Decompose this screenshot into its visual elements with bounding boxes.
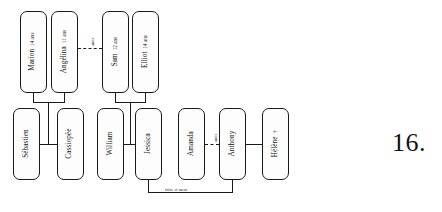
- person-label-sam: Sam 12 ans: [112, 37, 119, 67]
- person-label-cassiopee: Cassiopée: [67, 129, 74, 159]
- person-name: Anthony: [229, 131, 236, 157]
- person-age: 14 ans: [31, 33, 36, 46]
- filiation-stub-angelina: [64, 93, 65, 102]
- person-label-william: William: [107, 132, 114, 156]
- person-label-helene: Hélène †: [272, 130, 279, 157]
- person-node-angelina[interactable]: Angélina 11 ans: [51, 11, 78, 93]
- person-node-elliot[interactable]: Elliot 14 ans: [132, 11, 159, 93]
- person-name: Elliot: [142, 52, 149, 69]
- relation-label-frere-et-soeur: frère et sœur: [163, 188, 189, 192]
- person-label-anthony: Anthony: [229, 131, 236, 157]
- filiation-stub-sam: [115, 93, 116, 102]
- sibling-stub-anthony: [232, 180, 233, 193]
- filiation-drop-left: [48, 102, 49, 144]
- person-label-amanda: Amanda: [188, 132, 195, 157]
- person-label-elliot: Elliot 14 ans: [142, 36, 149, 69]
- person-node-sam[interactable]: Sam 12 ans: [102, 11, 129, 93]
- person-node-sebastien[interactable]: Sébastien: [13, 108, 40, 180]
- person-label-jessica: Jessica: [145, 134, 152, 155]
- person-name: Cassiopée: [67, 129, 74, 159]
- relation-friendship-angelina-sam: [78, 48, 102, 49]
- relation-couple-william-jessica: [123, 144, 136, 145]
- person-age: 12 ans: [113, 37, 118, 50]
- person-node-jessica[interactable]: Jessica: [135, 108, 162, 180]
- person-name: Sébastien: [23, 130, 30, 158]
- sibling-bar-jessica-anthony: [148, 192, 233, 193]
- person-name: Angélina: [61, 47, 68, 74]
- person-name: William: [107, 132, 114, 156]
- person-name: Sam: [112, 54, 119, 67]
- person-label-marion: Marion 14 ans: [30, 33, 37, 71]
- relation-couple-anthony-helene: [246, 144, 262, 145]
- person-node-william[interactable]: William: [97, 108, 124, 180]
- person-age: 11 ans: [62, 30, 67, 43]
- figure-number: 16.: [392, 128, 426, 158]
- person-name: Jessica: [145, 134, 152, 155]
- person-name: Marion: [30, 49, 37, 71]
- person-label-sebastien: Sébastien: [23, 130, 30, 158]
- person-label-angelina: Angélina 11 ans: [61, 30, 68, 73]
- person-node-cassiopee[interactable]: Cassiopée: [57, 108, 84, 180]
- person-node-helene[interactable]: Hélène †: [262, 108, 289, 180]
- filiation-drop-right: [130, 102, 131, 144]
- relation-friendship-amanda-anthony: [205, 144, 219, 145]
- relation-label-amis-top: amis: [91, 38, 95, 46]
- relation-label-amis-right: amis: [214, 134, 218, 142]
- person-node-amanda[interactable]: Amanda: [178, 108, 205, 180]
- person-node-anthony[interactable]: Anthony: [219, 108, 246, 180]
- filiation-stub-marion: [33, 93, 34, 102]
- person-age: 14 ans: [143, 36, 148, 49]
- person-name: Amanda: [188, 132, 195, 157]
- genogram-figure: Marion 14 ans Angélina 11 ans Sam 12 ans…: [0, 0, 442, 212]
- relation-couple-sebastien-cassiopee: [39, 144, 58, 145]
- filiation-stub-elliot: [145, 93, 146, 102]
- person-node-marion[interactable]: Marion 14 ans: [20, 11, 47, 93]
- deceased-marker: †: [272, 130, 279, 134]
- person-name: Hélène: [272, 137, 279, 158]
